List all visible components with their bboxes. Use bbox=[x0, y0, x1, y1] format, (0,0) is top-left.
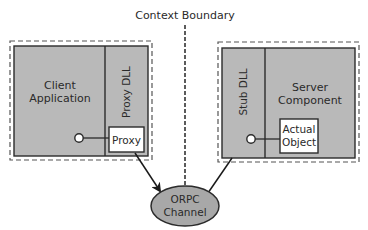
actual-object-label-line2: Object bbox=[282, 136, 316, 148]
orpc-channel: ORPC Channel bbox=[151, 186, 219, 226]
stub-dll-label: Stub DLL bbox=[237, 68, 249, 115]
proxy-label: Proxy bbox=[112, 134, 141, 146]
server-label-line1: Server bbox=[292, 81, 329, 94]
object-interface-lollipop-icon bbox=[247, 135, 255, 143]
context-boundary-label: Context Boundary bbox=[135, 9, 235, 22]
actual-object-label-line1: Actual bbox=[283, 123, 316, 135]
orpc-channel-label-line2: Channel bbox=[163, 206, 206, 218]
proxy-to-channel-arrow bbox=[135, 153, 160, 191]
orpc-diagram: Context Boundary Client Application Prox… bbox=[0, 0, 368, 230]
client-label-line1: Client bbox=[44, 79, 77, 92]
server-label-line2: Component bbox=[278, 94, 343, 107]
proxy-dll-label: Proxy DLL bbox=[120, 66, 132, 118]
channel-to-stub-line bbox=[208, 158, 232, 193]
client-label-line2: Application bbox=[29, 92, 90, 105]
client-process: Client Application Proxy DLL Proxy bbox=[10, 41, 152, 160]
proxy-interface-lollipop-icon bbox=[75, 134, 83, 142]
server-process: Server Component Stub DLL Actual Object bbox=[218, 42, 359, 162]
orpc-channel-label-line1: ORPC bbox=[170, 193, 199, 205]
